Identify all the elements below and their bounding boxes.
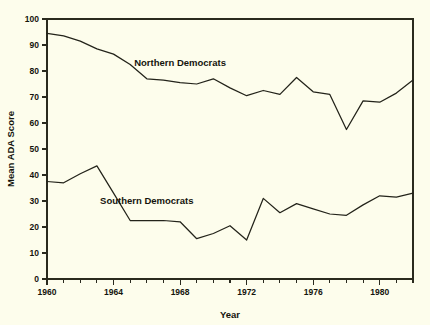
x-tick-label: 1964 (104, 287, 123, 297)
series-group (47, 33, 413, 240)
y-tick-label: 10 (30, 248, 40, 258)
x-tick-label: 1960 (38, 287, 57, 297)
plot-frame (47, 19, 413, 279)
y-tick-label: 80 (30, 66, 40, 76)
y-tick-label: 40 (30, 170, 40, 180)
y-tick-label: 100 (25, 14, 39, 24)
x-tick-label: 1976 (304, 287, 323, 297)
y-tick-label: 0 (34, 274, 39, 284)
x-tick-label: 1980 (370, 287, 389, 297)
y-tick-label: 30 (30, 196, 40, 206)
series-labels-group: Northern DemocratsSouthern Democrats (100, 57, 226, 206)
series-annotation-label: Southern Democrats (100, 195, 193, 206)
series-line (47, 33, 413, 129)
chart-container: 1960196419681972197619800102030405060708… (0, 0, 430, 325)
series-annotation-label: Northern Democrats (134, 57, 226, 68)
y-tick-label: 60 (30, 118, 40, 128)
x-axis-title: Year (220, 309, 240, 320)
tick-marks-group (42, 19, 413, 285)
y-tick-label: 50 (30, 144, 40, 154)
y-tick-label: 90 (30, 40, 40, 50)
y-axis-title: Mean ADA Score (5, 111, 16, 187)
x-tick-label: 1968 (171, 287, 190, 297)
line-chart: 1960196419681972197619800102030405060708… (0, 0, 430, 325)
axis-frame (47, 19, 413, 279)
y-tick-label: 70 (30, 92, 40, 102)
y-tick-label: 20 (30, 222, 40, 232)
x-tick-label: 1972 (237, 287, 256, 297)
